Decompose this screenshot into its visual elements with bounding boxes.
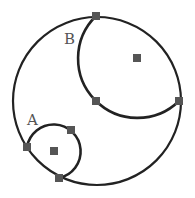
node-right: [175, 97, 183, 105]
node-left: [23, 143, 31, 151]
node-a-center: [50, 147, 58, 155]
node-b-center: [133, 54, 141, 62]
node-top: [92, 12, 100, 20]
node-bottom: [55, 174, 63, 182]
node-a-upper: [67, 126, 75, 134]
label-a: A: [26, 111, 38, 129]
label-b: B: [64, 30, 75, 48]
node-b-bottom: [92, 97, 100, 105]
circle-diagram: B A: [0, 0, 195, 198]
